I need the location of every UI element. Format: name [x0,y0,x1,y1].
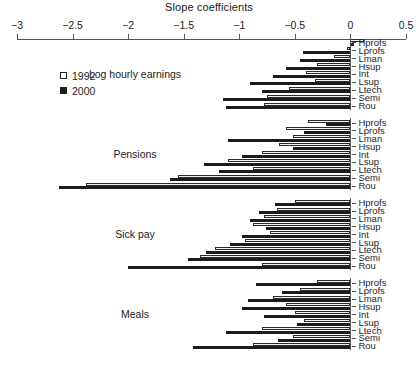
category-tick [352,283,356,284]
panel-label: Sick pay [115,228,155,240]
bar-2000 [206,251,350,254]
category-tick [352,346,356,347]
panel-baseline [350,198,351,270]
x-tick-label: 0.5 [399,19,414,31]
bar-2000 [300,59,350,62]
category-tick [352,186,356,187]
open-square-icon [60,72,67,79]
category-tick [352,42,356,43]
bar-2000 [286,67,350,70]
category-tick [352,242,356,243]
category-tick [352,234,356,235]
panel-label: Log hourly earnings [89,68,181,80]
bar-2000 [275,203,351,206]
category-tick [352,130,356,131]
category-tick [352,266,356,267]
category-tick [352,330,356,331]
bar-2000 [262,90,351,93]
category-tick [352,123,356,124]
x-tick-label: −1 [233,19,245,31]
bar-2000 [219,170,350,173]
category-tick [352,203,356,204]
bar-2000 [193,346,351,349]
category-tick [352,306,356,307]
slope-coefficients-chart: Slope coefficients −3−2.5−2−1.5−1−0.500.… [0,0,418,378]
panel-label: Pensions [113,148,156,160]
x-tick-mark [17,34,18,39]
category-label-rou: Rou [358,341,375,350]
bar-2000 [204,163,351,166]
bar-2000 [242,235,351,238]
x-axis-line [17,39,406,40]
bar-2000 [264,315,351,318]
category-tick [352,299,356,300]
x-tick-label: −2 [122,19,134,31]
bar-2000 [266,227,350,230]
bar-2000 [242,307,351,310]
bar-2000 [278,339,350,342]
filled-square-icon [60,87,67,94]
x-tick-mark [184,34,185,39]
legend-item-2000: 2000 [60,83,95,98]
x-tick-mark [73,34,74,39]
category-tick [352,58,356,59]
bar-2000 [226,106,350,109]
category-tick [352,106,356,107]
bar-2000 [242,155,351,158]
category-tick [352,138,356,139]
panel-baseline [350,118,351,190]
category-tick [352,218,356,219]
category-tick [352,82,356,83]
x-tick-label: −0.5 [284,19,305,31]
bar-2000 [256,283,350,286]
category-tick [352,322,356,323]
bar-2000 [304,131,351,134]
panel-label: Meals [121,308,149,320]
legend-label-2000: 2000 [72,85,95,97]
bar-2000 [293,147,351,150]
category-tick [352,74,356,75]
category-tick [352,226,356,227]
category-tick [352,170,356,171]
bar-2000 [250,82,350,85]
category-tick [352,66,356,67]
category-tick [352,314,356,315]
bar-2000 [230,243,350,246]
bar-2000 [228,139,350,142]
x-tick-mark [239,34,240,39]
category-label-rou: Rou [358,261,375,270]
category-tick [352,146,356,147]
category-label-rou: Rou [358,101,375,110]
category-tick [352,211,356,212]
category-tick [352,50,356,51]
category-tick [352,291,356,292]
bar-2000 [326,123,350,126]
bar-2000 [226,331,350,334]
category-tick [352,154,356,155]
x-tick-label: −3 [11,19,23,31]
panel-baseline [350,278,351,350]
category-tick [352,162,356,163]
x-tick-mark [295,34,296,39]
category-tick [352,178,356,179]
bar-2000 [188,258,350,261]
bar-2000 [282,291,351,294]
bar-2000 [223,98,351,101]
bar-2000 [170,178,350,181]
bar-2000 [297,323,350,326]
x-tick-label: −1.5 [173,19,194,31]
category-tick [352,250,356,251]
chart-title: Slope coefficients [0,1,418,13]
bar-2000 [59,186,350,189]
category-tick [352,90,356,91]
x-tick-mark [128,34,129,39]
bar-2000 [248,299,350,302]
bar-2000 [303,51,351,54]
bar-2000 [250,219,350,222]
x-tick-label: −2.5 [62,19,83,31]
x-tick-mark [406,34,407,39]
category-tick [352,258,356,259]
bar-2000 [273,75,351,78]
category-label-rou: Rou [358,181,375,190]
category-tick [352,338,356,339]
